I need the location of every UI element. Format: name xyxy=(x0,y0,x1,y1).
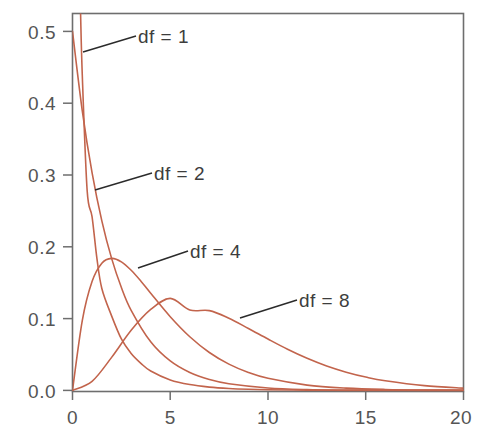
x-tick-label-20: 20 xyxy=(450,407,472,428)
series-label-df-4: df = 4 xyxy=(190,241,241,262)
series-label-df-8: df = 8 xyxy=(299,290,350,311)
data-curves xyxy=(73,0,464,390)
x-tick-label-10: 10 xyxy=(257,407,279,428)
y-tick-label-0.4: 0.4 xyxy=(28,93,56,114)
leader-line-df-8 xyxy=(240,300,297,318)
plot-frame xyxy=(73,14,464,392)
chi-square-density-plot: 0.5 0.4 0.3 0.2 0.1 0.0 0 5 10 15 20 xyxy=(0,0,484,446)
y-axis-tick-labels: 0.5 0.4 0.3 0.2 0.1 0.0 xyxy=(28,22,56,402)
y-tick-label-0.0: 0.0 xyxy=(28,381,56,402)
curve-df-8 xyxy=(73,298,464,390)
leader-line-df-2 xyxy=(95,173,152,190)
x-tick-label-5: 5 xyxy=(165,407,176,428)
figure-caption xyxy=(0,439,484,446)
y-axis-ticks xyxy=(63,31,73,390)
y-tick-label-0.5: 0.5 xyxy=(28,22,56,43)
x-axis-ticks xyxy=(73,392,464,401)
series-label-df-1: df = 1 xyxy=(138,26,189,47)
curve-df-4 xyxy=(73,258,464,390)
series-label-df-2: df = 2 xyxy=(154,163,205,184)
chart-figure: 0.5 0.4 0.3 0.2 0.1 0.0 0 5 10 15 20 xyxy=(0,0,484,446)
x-axis-tick-labels: 0 5 10 15 20 xyxy=(67,407,472,428)
x-tick-label-0: 0 xyxy=(67,407,78,428)
y-tick-label-0.2: 0.2 xyxy=(28,237,56,258)
leader-line-df-1 xyxy=(83,36,136,52)
leader-line-df-4 xyxy=(138,251,188,268)
curve-df-2 xyxy=(73,31,464,390)
x-tick-label-15: 15 xyxy=(355,407,377,428)
y-tick-label-0.3: 0.3 xyxy=(28,165,56,186)
curve-df-1 xyxy=(77,0,463,390)
y-tick-label-0.1: 0.1 xyxy=(28,309,56,330)
annotation-labels: df = 1 df = 2 df = 4 df = 8 xyxy=(138,26,350,311)
